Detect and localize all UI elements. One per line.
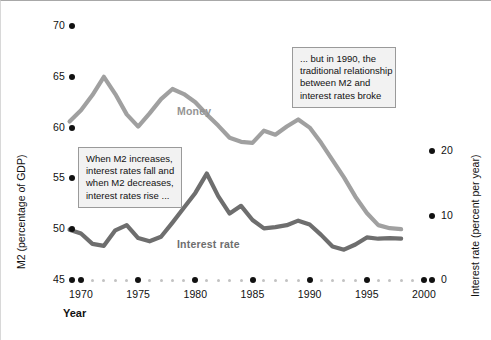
x-axis-minor-tick-dot (171, 279, 174, 282)
x-axis-minor-tick-dot (411, 279, 414, 282)
x-axis-major-tick-dot (307, 277, 313, 283)
annotation-line: When M2 increases, (86, 153, 174, 165)
annotation-line: traditional relationship (300, 65, 388, 77)
y-axis-left-tick-label: 70 (47, 19, 65, 31)
annotation-line: when M2 decreases, (86, 177, 174, 189)
x-axis-minor-tick-dot (91, 279, 94, 282)
y-axis-right-tick-dot (429, 277, 435, 283)
x-axis-major-tick-dot (421, 277, 427, 283)
x-axis-tick-label: 1995 (349, 288, 385, 300)
y-axis-left-tick-label: 50 (47, 222, 65, 234)
x-axis-title: Year (63, 307, 86, 319)
y-axis-right-tick-label: 20 (441, 144, 453, 156)
y-axis-left-tick-dot (69, 23, 75, 29)
series-label-interest-rate: Interest rate (177, 238, 240, 250)
y-axis-right-title: Interest rate (percent per year) (469, 155, 481, 297)
x-axis-tick-label: 1980 (177, 288, 213, 300)
x-axis-minor-tick-dot (114, 279, 117, 282)
annotation-callout-left: When M2 increases,interest rates fall an… (78, 147, 182, 208)
x-axis-minor-tick-dot (388, 279, 391, 282)
y-axis-left-tick-dot (69, 74, 75, 80)
x-axis-minor-tick-dot (377, 279, 380, 282)
x-axis-tick-label: 1970 (63, 288, 99, 300)
x-axis-major-tick-dot (78, 277, 84, 283)
y-axis-left-tick-label: 55 (47, 171, 65, 183)
annotation-line: interest rates broke (300, 90, 388, 102)
chart-figure: 706560555045 20100 197019751980198519901… (0, 0, 491, 340)
x-axis-minor-tick-dot (354, 279, 357, 282)
annotation-line: ... but in 1990, the (300, 53, 388, 65)
y-axis-left-tick-dot (69, 125, 75, 131)
x-axis-tick-label: 2000 (406, 288, 442, 300)
annotation-line: interest rates fall and (86, 165, 174, 177)
x-axis-major-tick-dot (250, 277, 256, 283)
x-axis-minor-tick-dot (217, 279, 220, 282)
x-axis-minor-tick-dot (148, 279, 151, 282)
series-label-money: Money (177, 105, 211, 117)
x-axis-minor-tick-dot (274, 279, 277, 282)
x-axis-minor-tick-dot (160, 279, 163, 282)
y-axis-left-tick-label: 65 (47, 70, 65, 82)
annotation-callout-right: ... but in 1990, thetraditional relation… (292, 47, 396, 108)
x-axis-minor-tick-dot (331, 279, 334, 282)
x-axis-minor-tick-dot (228, 279, 231, 282)
x-axis-tick-label: 1975 (120, 288, 156, 300)
x-axis-minor-tick-dot (125, 279, 128, 282)
y-axis-right-tick-label: 0 (441, 273, 447, 285)
x-axis-minor-tick-dot (240, 279, 243, 282)
x-axis-tick-label: 1985 (235, 288, 271, 300)
y-axis-right-tick-dot (429, 148, 435, 154)
x-axis-minor-tick-dot (297, 279, 300, 282)
annotation-line: interest rates rise ... (86, 190, 174, 202)
y-axis-left-title: M2 (percentage of GDP) (15, 155, 27, 269)
y-axis-left-tick-dot (69, 277, 75, 283)
y-axis-right-tick-label: 10 (441, 209, 453, 221)
x-axis-minor-tick-dot (320, 279, 323, 282)
x-axis-minor-tick-dot (400, 279, 403, 282)
y-axis-left-tick-label: 60 (47, 121, 65, 133)
x-axis-minor-tick-dot (205, 279, 208, 282)
y-axis-left-tick-label: 45 (47, 273, 65, 285)
y-axis-right-tick-dot (429, 213, 435, 219)
x-axis-tick-label: 1990 (292, 288, 328, 300)
annotation-line: between M2 and (300, 77, 388, 89)
x-axis-major-tick-dot (364, 277, 370, 283)
x-axis-minor-tick-dot (285, 279, 288, 282)
